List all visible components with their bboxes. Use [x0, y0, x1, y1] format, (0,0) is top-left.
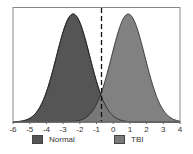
- x-tick-label: 0: [111, 125, 116, 134]
- density-area-tbi: [13, 14, 180, 122]
- legend-item-normal: Normal: [32, 135, 75, 144]
- x-axis: -6-5-4-3-2-101234: [9, 122, 182, 134]
- legend: Normal TBI: [0, 135, 193, 147]
- x-tick-label: 3: [161, 125, 166, 134]
- x-tick-label: -6: [9, 125, 17, 134]
- x-tick-label: -3: [60, 125, 68, 134]
- x-tick-label: -2: [76, 125, 84, 134]
- x-tick-label: 4: [178, 125, 183, 134]
- legend-swatch-normal: [32, 135, 43, 144]
- legend-swatch-tbi: [114, 135, 125, 144]
- x-tick-label: -4: [43, 125, 51, 134]
- legend-label-normal: Normal: [49, 135, 75, 144]
- density-curves: [13, 14, 180, 122]
- legend-item-tbi: TBI: [114, 135, 143, 144]
- x-tick-label: -5: [26, 125, 34, 134]
- legend-label-tbi: TBI: [131, 135, 143, 144]
- x-tick-label: -1: [93, 125, 101, 134]
- x-tick-label: 1: [128, 125, 133, 134]
- density-chart: -6-5-4-3-2-101234: [0, 0, 193, 154]
- x-tick-label: 2: [144, 125, 149, 134]
